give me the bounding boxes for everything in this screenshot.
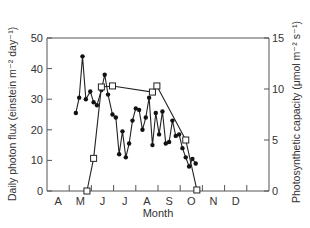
photon-flux-point [137,108,141,112]
chart-container: 01020304050051015AMJJASOND Month Daily p… [0,0,310,228]
photon-flux-point [127,141,131,145]
photon-flux-point [187,164,191,168]
capacity-point [149,89,155,95]
series-layer [74,54,200,194]
x-tick-label: D [232,195,240,207]
photon-flux-point [160,109,164,113]
photon-flux-point [120,129,124,133]
photon-flux-point [144,115,148,119]
x-axis-label: Month [143,207,174,219]
y-right-tick-label: 0 [272,185,278,197]
photon-flux-point [130,118,134,122]
capacity-point [194,187,200,193]
x-tick-label: A [54,195,62,207]
photon-flux-point [180,146,184,150]
x-tick-label: A [143,195,151,207]
line-chart: 01020304050051015AMJJASOND Month Daily p… [0,0,310,228]
photon-flux-point [177,132,181,136]
photon-flux-point [157,132,161,136]
x-tick-label: S [165,195,172,207]
photon-flux-point [88,89,92,93]
y-left-tick-label: 30 [31,93,43,105]
photon-flux-point [106,92,110,96]
capacity-point [91,155,97,161]
photon-flux-point [117,152,121,156]
capacity-point [98,84,104,90]
x-tick-label: J [100,195,106,207]
y-axis-right-label: Photosynthetic capacity (μmol m⁻² s⁻¹) [290,21,302,203]
x-tick-label: N [210,195,218,207]
y-right-tick-label: 10 [272,83,284,95]
photon-flux-point [80,54,84,58]
y-left-tick-label: 50 [31,32,43,44]
x-tick-label: O [187,195,196,207]
y-axis-left-label: Daily photon flux (einstein m⁻² day⁻¹) [6,27,18,201]
photon-flux-point [84,97,88,101]
y-right-tick-label: 15 [272,32,284,44]
y-left-tick-label: 40 [31,63,43,75]
photon-flux-point [103,73,107,77]
photon-flux-point [184,155,188,159]
capacity-point [109,83,115,89]
y-right-tick-label: 5 [272,134,278,146]
capacity-point [154,83,160,89]
capacity-point [84,188,90,194]
photon-flux-point [95,103,99,107]
photon-flux-point [150,143,154,147]
y-left-tick-label: 10 [31,154,43,166]
x-tick-label: J [122,195,128,207]
photon-flux-point [114,115,118,119]
x-tick-label: M [76,195,85,207]
photon-flux-point [110,112,114,116]
photon-flux-point [167,140,171,144]
y-left-tick-label: 0 [37,185,43,197]
photon-flux-point [190,157,194,161]
photon-flux-point [91,100,95,104]
photon-flux-point [194,161,198,165]
photon-flux-point [77,95,81,99]
photon-flux-point [154,111,158,115]
photon-flux-point [147,95,151,99]
capacity-point [183,137,189,143]
photon-flux-line [76,56,196,166]
photon-flux-point [140,128,144,132]
photon-flux-point [74,111,78,115]
photon-flux-point [124,155,128,159]
y-left-tick-label: 20 [31,124,43,136]
axes: 01020304050051015AMJJASOND [31,32,285,207]
